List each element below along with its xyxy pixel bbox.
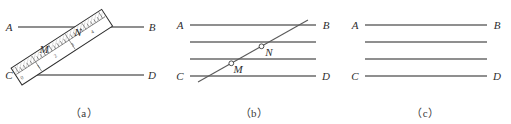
label-N: N	[73, 26, 82, 38]
panel-c-caption: （c）	[340, 104, 511, 120]
transversal-line	[198, 20, 308, 82]
label-C: C	[5, 69, 13, 81]
label-M: M	[232, 63, 243, 75]
geometry-figure: 0 1 2 3 4 A B C D M N （a）	[0, 0, 511, 124]
panel-b-caption: （b）	[168, 104, 340, 120]
panel-a: 0 1 2 3 4 A B C D M N （a）	[0, 0, 168, 124]
label-B: B	[494, 19, 501, 31]
label-A: A	[5, 21, 13, 33]
label-B: B	[149, 21, 156, 33]
panel-a-caption: （a）	[0, 104, 168, 120]
label-C: C	[351, 70, 359, 82]
label-A: A	[176, 19, 184, 31]
ruler-scale-baseline	[16, 17, 105, 75]
label-A: A	[351, 19, 359, 31]
point-N-marker	[259, 44, 264, 49]
label-N: N	[264, 46, 273, 58]
label-D: D	[321, 70, 330, 82]
panel-b: A B C D M N （b）	[168, 0, 340, 124]
label-D: D	[147, 69, 156, 81]
label-D: D	[492, 70, 501, 82]
label-M: M	[38, 43, 49, 55]
panel-c: A B C D （c）	[340, 0, 511, 124]
label-C: C	[176, 70, 184, 82]
ruler: 0 1 2 3 4	[11, 9, 112, 85]
label-B: B	[323, 19, 330, 31]
ruler-hatch-strip	[12, 11, 105, 75]
